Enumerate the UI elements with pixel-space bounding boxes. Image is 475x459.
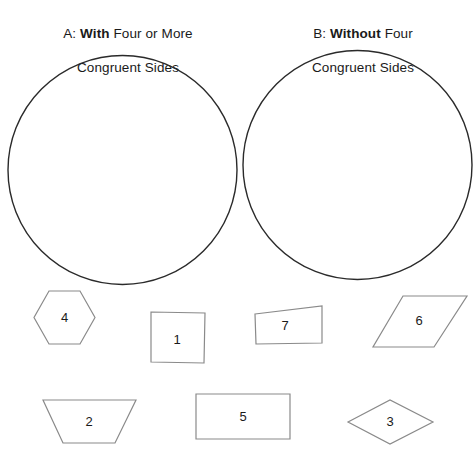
shape-number-7: 7 bbox=[281, 318, 288, 333]
shape-tile-1[interactable]: 1 bbox=[151, 312, 205, 363]
shape-tile-5[interactable]: 5 bbox=[196, 394, 290, 439]
sorting-circle-b[interactable] bbox=[243, 51, 472, 280]
worksheet-canvas: 4 1 7 6 2 5 3 bbox=[0, 0, 475, 459]
shape-tile-7[interactable]: 7 bbox=[255, 306, 322, 344]
shape-tile-3[interactable]: 3 bbox=[348, 400, 433, 444]
shape-number-5: 5 bbox=[239, 409, 246, 424]
shape-tile-2[interactable]: 2 bbox=[43, 400, 136, 443]
shape-number-1: 1 bbox=[173, 332, 180, 347]
shape-number-3: 3 bbox=[386, 414, 393, 429]
sorting-circle-a[interactable] bbox=[8, 56, 237, 285]
shape-tile-6[interactable]: 6 bbox=[373, 296, 467, 347]
shape-tile-4[interactable]: 4 bbox=[34, 291, 95, 344]
shape-number-6: 6 bbox=[415, 313, 422, 328]
sorting-worksheet: A: With Four or More Congruent Sides B: … bbox=[0, 0, 475, 459]
shape-number-2: 2 bbox=[85, 414, 92, 429]
shape-number-4: 4 bbox=[61, 310, 68, 325]
